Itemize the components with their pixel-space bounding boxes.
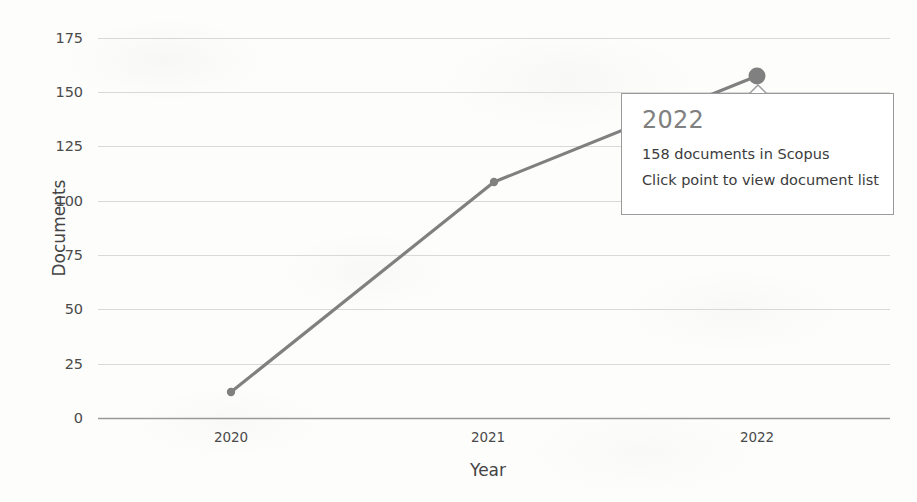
y-tick-label-125: 125 <box>23 138 83 154</box>
data-point-2021 <box>490 178 498 186</box>
tooltip-year-title: 2022 <box>642 106 704 134</box>
scopus-documents-per-year-chart: 175 150 125 100 75 50 25 0 2020 2021 202… <box>0 0 917 502</box>
y-tick-label-0: 0 <box>23 410 83 426</box>
y-tick-label-175: 175 <box>23 30 83 46</box>
x-axis-title: Year <box>448 460 528 480</box>
x-tick-label-2021: 2021 <box>443 429 533 445</box>
x-tick-label-2022: 2022 <box>712 429 802 445</box>
tooltip-click-hint: Click point to view document list <box>642 172 879 188</box>
y-tick-label-50: 50 <box>23 301 83 317</box>
y-tick-label-150: 150 <box>23 84 83 100</box>
x-tick-label-2020: 2020 <box>186 429 276 445</box>
y-tick-label-25: 25 <box>23 356 83 372</box>
y-axis-title: Documents <box>49 180 69 277</box>
chart-plot-area <box>0 0 917 502</box>
data-point-2022-highlighted <box>749 68 766 85</box>
data-point-tooltip[interactable]: 2022 158 documents in Scopus Click point… <box>621 93 894 215</box>
tooltip-document-count: 158 documents in Scopus <box>642 146 829 162</box>
data-point-2020 <box>227 388 235 396</box>
